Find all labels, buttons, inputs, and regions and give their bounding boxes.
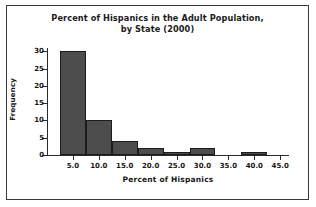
y-tick-label: 25 (34, 65, 44, 73)
x-tick-label: 5.0 (67, 162, 79, 170)
x-tick-label: 30.0 (194, 162, 211, 170)
histogram-bar (164, 152, 190, 155)
x-tick-label: 35.0 (220, 162, 237, 170)
x-tick-mark (177, 156, 178, 160)
x-tick-mark (228, 156, 229, 160)
x-axis-ticks: 5.010.015.020.025.030.035.040.045.0 (47, 156, 289, 176)
histogram-bar (241, 152, 267, 155)
x-tick-mark (254, 156, 255, 160)
y-tick-label: 20 (34, 82, 44, 90)
histogram-bar (138, 148, 164, 155)
x-tick-label: 15.0 (116, 162, 133, 170)
plot-area: 051015202530 (47, 48, 288, 155)
x-tick-label: 10.0 (90, 162, 107, 170)
chart-title: Percent of Hispanics in the Adult Popula… (10, 13, 305, 35)
y-tick-label: 0 (39, 151, 44, 159)
histogram-bar (60, 51, 86, 155)
x-tick-mark (280, 156, 281, 160)
y-tick-label: 30 (34, 47, 44, 55)
chart-title-line-1: Percent of Hispanics in the Adult Popula… (51, 13, 263, 23)
x-tick-label: 45.0 (272, 162, 289, 170)
x-tick-mark (202, 156, 203, 160)
x-tick-mark (99, 156, 100, 160)
histogram-figure: Percent of Hispanics in the Adult Popula… (0, 0, 316, 207)
x-axis-label: Percent of Hispanics (47, 175, 289, 184)
x-tick-label: 20.0 (142, 162, 159, 170)
x-tick-mark (151, 156, 152, 160)
x-tick-mark (125, 156, 126, 160)
x-tick-label: 25.0 (168, 162, 185, 170)
histogram-bar (112, 141, 138, 155)
y-tick-label: 15 (34, 99, 44, 107)
histogram-bar (86, 120, 112, 155)
histogram-bar (190, 148, 216, 155)
x-tick-label: 40.0 (246, 162, 263, 170)
x-tick-mark (73, 156, 74, 160)
y-tick-label: 10 (34, 116, 44, 124)
y-axis-label: Frequency (9, 78, 23, 121)
y-tick-label: 5 (39, 134, 44, 142)
chart-title-line-2: by State (2000) (10, 24, 305, 35)
